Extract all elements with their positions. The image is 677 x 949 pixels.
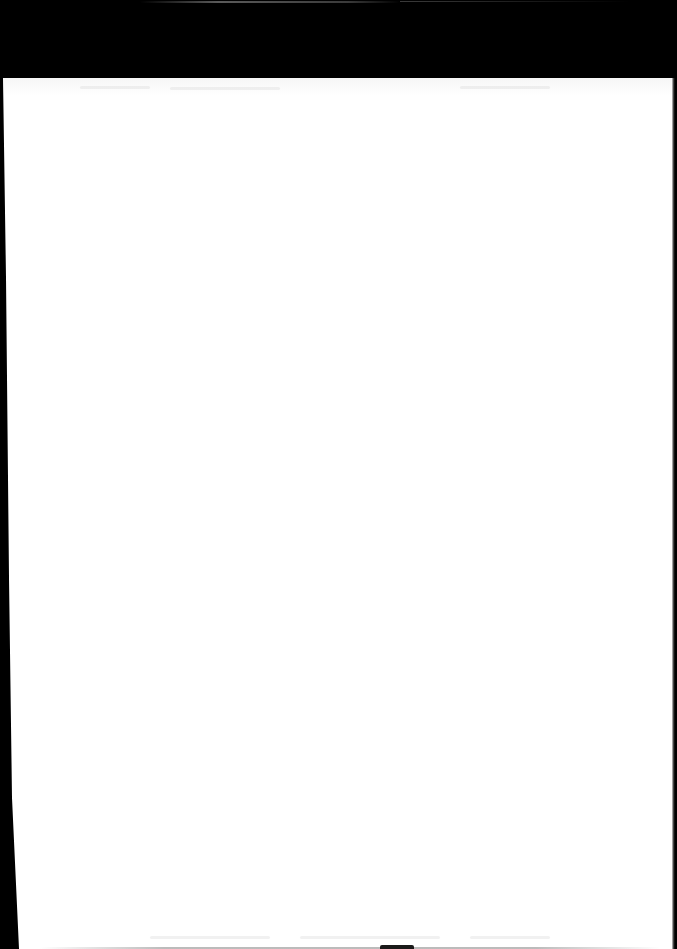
scanner-top-border [0,0,677,78]
bleed-through-mark [470,936,550,939]
scanner-glare-line [400,1,630,2]
scanner-glare-line [140,1,400,3]
bleed-through-mark [150,936,270,939]
bleed-through-mark [80,86,150,89]
page-right-edge [672,78,675,949]
scanned-document [0,0,677,949]
bleed-through-mark [170,87,280,90]
bleed-through-mark [300,936,440,939]
blank-page [0,78,677,949]
bleed-through-mark [460,86,550,89]
bottom-center-mark [380,945,414,949]
